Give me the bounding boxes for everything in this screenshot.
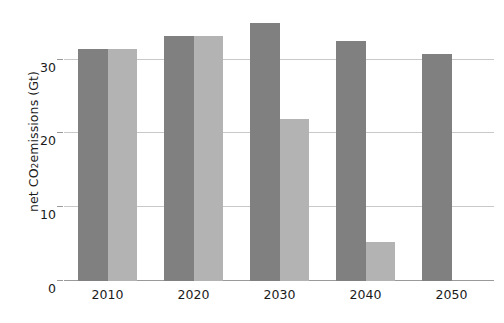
bar-group — [236, 8, 322, 281]
y-axis-tick-labels: 0102030 — [18, 8, 56, 281]
bar — [194, 36, 224, 281]
y-tick-mark — [57, 280, 63, 281]
y-tick-mark — [57, 132, 63, 133]
bar — [366, 242, 396, 281]
bar — [164, 36, 194, 281]
bar — [108, 49, 138, 281]
x-tick-label: 2030 — [264, 287, 296, 302]
x-tick-label: 2020 — [178, 287, 210, 302]
bar — [422, 54, 452, 281]
bar-chart: net CO2 emissions (Gt) 0102030 201020202… — [0, 0, 504, 323]
bar — [250, 23, 280, 281]
y-tick-mark — [57, 206, 63, 207]
bar — [280, 119, 310, 281]
x-axis-tick-labels: 20102020203020402050 — [64, 287, 494, 311]
x-tick-label: 2050 — [436, 287, 468, 302]
bar — [336, 41, 366, 281]
bar — [78, 49, 108, 281]
x-tick-label: 2010 — [92, 287, 124, 302]
bar-group — [150, 8, 236, 281]
bar-group — [322, 8, 408, 281]
y-tick-mark — [57, 59, 63, 60]
bar-group — [408, 8, 494, 281]
x-tick-label: 2040 — [350, 287, 382, 302]
plot-area — [64, 8, 494, 281]
bar-group — [64, 8, 150, 281]
